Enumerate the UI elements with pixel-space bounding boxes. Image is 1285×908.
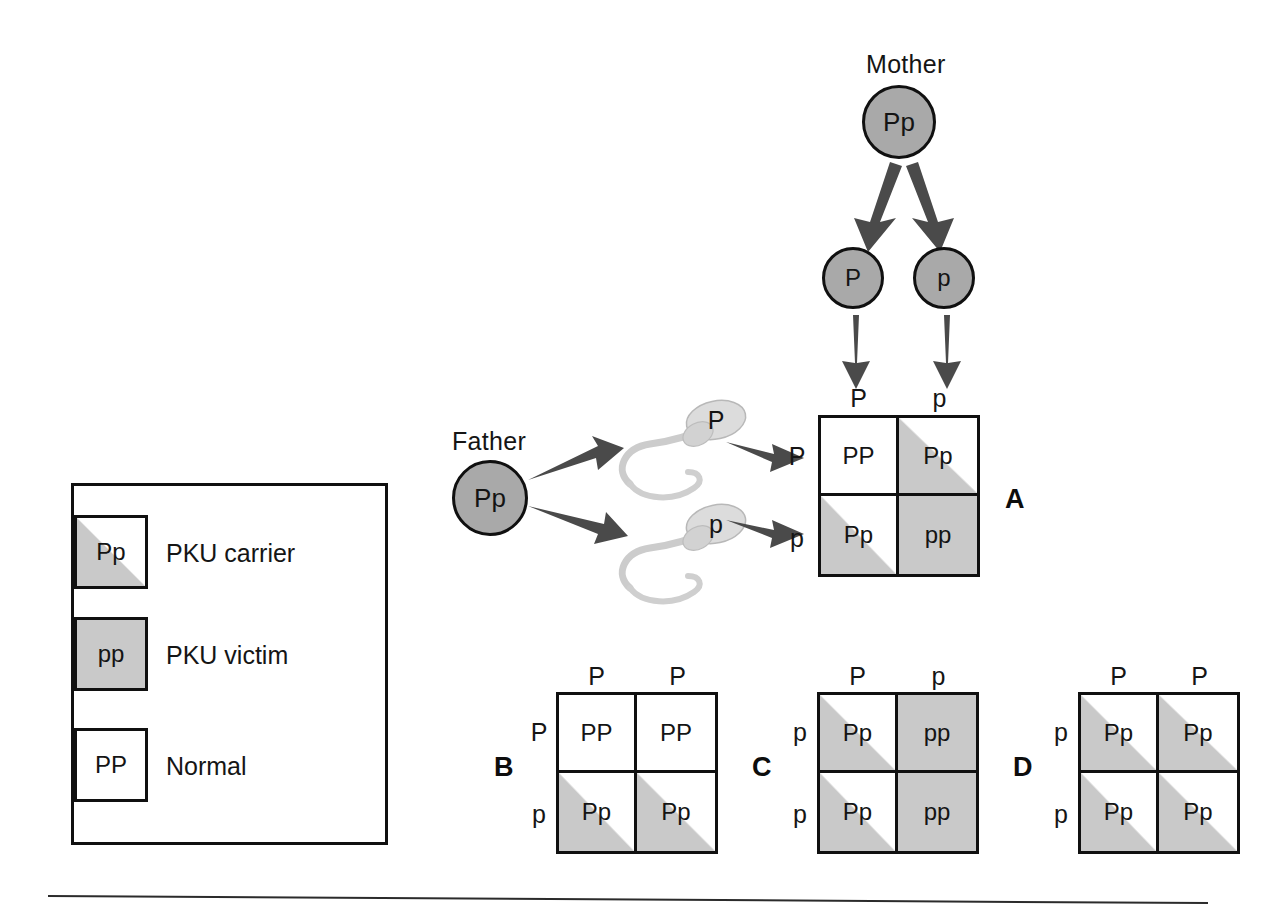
square-D-row-header-2: p [1050,800,1072,829]
figure-canvas: Mother Pp P p Father Pp P [0,0,1285,908]
square-D-cell-3-genotype: Pp [1104,798,1133,826]
square-B-cell-4-genotype: Pp [661,798,690,826]
square-A-cell-4-genotype: pp [925,521,952,549]
mother-gamete-circle-2: p [913,247,975,309]
square-B-cell-1: PP [559,695,637,773]
square-B-col-header-2: P [637,662,718,691]
punnett-square-D: Pp Pp Pp Pp [1078,692,1240,854]
square-A-cell-1-genotype: PP [842,442,874,470]
punnett-square-C: Pp pp Pp pp [817,692,979,854]
square-A-row-header-2: p [786,524,808,553]
legend-swatch-victim-genotype: pp [98,640,125,668]
panel-label-B: B [494,754,514,781]
square-B-row-header-2: p [528,800,550,829]
father-circle: Pp [452,460,528,536]
square-C-cell-3: Pp [820,773,898,851]
square-D-cell-1-genotype: Pp [1104,719,1133,747]
square-A-cell-2-genotype: Pp [923,442,952,470]
legend-swatch-normal-genotype: PP [95,751,127,779]
square-A-cell-3: Pp [821,496,899,574]
square-B-cell-2: PP [637,695,715,773]
square-C-col-header-2: p [898,662,979,691]
legend-swatch-carrier-genotype: Pp [96,538,125,566]
panel-label-C: C [752,754,772,781]
square-D-col-header-1: P [1078,662,1159,691]
mother-genotype: Pp [883,107,915,138]
punnett-square-A: PP Pp Pp pp [818,415,980,577]
mother-gamete-circle-1: P [822,247,884,309]
square-C-cell-1: Pp [820,695,898,773]
father-genotype: Pp [474,483,506,514]
mother-label: Mother [866,52,946,77]
panel-label-A: A [1005,486,1025,513]
square-B-col-header-1: P [556,662,637,691]
square-C-row-header-1: p [789,718,811,747]
square-C-col-header-1: P [817,662,898,691]
page-bottom-rule [48,895,1208,904]
square-C-cell-2: pp [898,695,976,773]
square-D-row-header-1: p [1050,718,1072,747]
square-B-cell-2-genotype: PP [660,719,692,747]
mother-circle: Pp [862,85,936,159]
square-C-cell-4: pp [898,773,976,851]
square-D-cell-4-genotype: Pp [1183,798,1212,826]
legend-label-normal: Normal [166,754,247,779]
arrow-mother-to-gamete-P [854,162,902,252]
square-B-row-header-1: P [528,718,550,747]
sperm-tail-1b [630,472,700,497]
square-A-cell-4: pp [899,496,977,574]
mother-gamete-allele-1: P [845,264,861,292]
square-C-row-header-2: p [789,800,811,829]
panel-label-D: D [1013,754,1033,781]
square-C-cell-2-genotype: pp [924,719,951,747]
father-label: Father [452,429,526,454]
square-D-col-header-2: P [1159,662,1240,691]
square-A-col-header-1: P [818,384,899,413]
square-D-cell-4: Pp [1159,773,1237,851]
square-A-cell-3-genotype: Pp [844,521,873,549]
square-C-cell-1-genotype: Pp [843,719,872,747]
square-A-cell-2: Pp [899,418,977,496]
square-B-cell-3: Pp [559,773,637,851]
square-C-cell-3-genotype: Pp [843,798,872,826]
gamete-to-square-arrows [828,315,988,393]
sperm-allele-2: p [709,510,723,538]
punnett-square-B: PP PP Pp Pp [556,692,718,854]
square-B-cell-4: Pp [637,773,715,851]
square-D-cell-1: Pp [1081,695,1159,773]
sperm-allele-1: P [708,406,725,434]
square-D-cell-3: Pp [1081,773,1159,851]
arrow-gamete-P-down [842,315,870,389]
arrow-mother-to-gamete-p [906,162,954,252]
square-B-cell-3-genotype: Pp [582,798,611,826]
legend-label-carrier: PKU carrier [166,541,295,566]
square-B-cell-1-genotype: PP [580,719,612,747]
legend-swatch-carrier: Pp [74,515,148,589]
square-C-cell-4-genotype: pp [924,798,951,826]
square-A-col-header-2: p [899,384,980,413]
sperm-tail-2b [630,576,700,601]
legend-label-victim: PKU victim [166,643,288,668]
mother-gamete-allele-2: p [937,264,950,292]
square-D-cell-2: Pp [1159,695,1237,773]
square-D-cell-2-genotype: Pp [1183,719,1212,747]
arrow-gamete-p-down [933,315,961,389]
legend-swatch-normal: PP [74,728,148,802]
square-A-cell-1: PP [821,418,899,496]
legend-swatch-victim: pp [74,617,148,691]
square-A-row-header-1: P [786,442,808,471]
